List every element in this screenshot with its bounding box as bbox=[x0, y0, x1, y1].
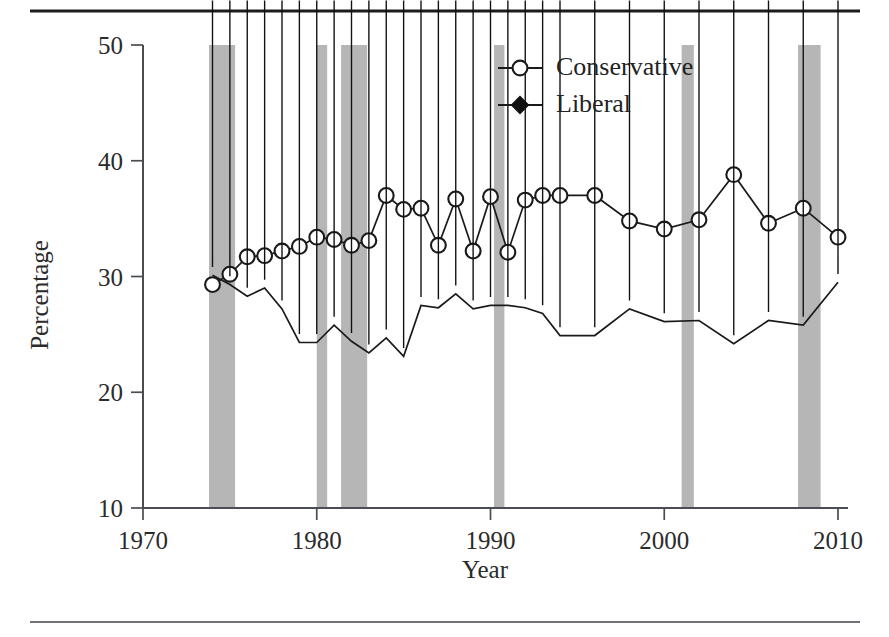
legend-item-conservative[interactable]: Conservative bbox=[498, 52, 693, 81]
series-liberal: Liberal 1974: 30.1Liberal 1975: 29.3Libe… bbox=[213, 0, 839, 356]
x-tick-label-1980: 1980 bbox=[292, 527, 342, 554]
y-tick-label-40: 40 bbox=[98, 148, 123, 175]
recession-band-3 bbox=[341, 45, 367, 508]
x-tick-label-2010: 2010 bbox=[813, 527, 863, 554]
legend-label-liberal: Liberal bbox=[556, 89, 631, 118]
recession-band-2 bbox=[317, 45, 327, 508]
y-tick-label-20: 20 bbox=[98, 379, 123, 406]
recession-band-6 bbox=[798, 45, 821, 508]
y-axis-title: Percentage bbox=[26, 240, 53, 350]
x-tick-group: 19701980199020002010 bbox=[118, 508, 863, 554]
y-tick-label-30: 30 bbox=[98, 264, 123, 291]
y-tick-label-10: 10 bbox=[98, 495, 123, 522]
data-point-conservative-1974[interactable]: Conservative 1974: 29.3 bbox=[205, 277, 220, 292]
recession-band-5 bbox=[682, 45, 694, 508]
chart-svg: 1020304050 19701980199020002010 Conserva… bbox=[0, 0, 889, 637]
y-tick-group: 1020304050 bbox=[98, 32, 143, 522]
legend-label-conservative: Conservative bbox=[556, 52, 693, 81]
x-tick-label-1990: 1990 bbox=[466, 527, 516, 554]
x-axis-title: Year bbox=[462, 556, 509, 583]
recession-bands-group bbox=[209, 45, 821, 508]
recession-band-4 bbox=[494, 45, 504, 508]
y-tick-label-50: 50 bbox=[98, 32, 123, 59]
figure-container: 1020304050 19701980199020002010 Conserva… bbox=[0, 0, 889, 637]
legend-marker-open-circle-icon bbox=[513, 61, 528, 76]
x-tick-label-2000: 2000 bbox=[639, 527, 689, 554]
x-tick-label-1970: 1970 bbox=[118, 527, 168, 554]
series-group: Conservative 1974: 29.3Conservative 1975… bbox=[205, 0, 845, 356]
legend-item-liberal[interactable]: Liberal bbox=[498, 89, 631, 118]
